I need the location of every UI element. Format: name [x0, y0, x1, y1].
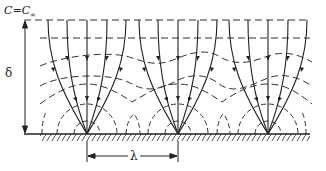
flux-lines	[48, 20, 307, 134]
lambda-label: λ	[128, 149, 140, 163]
far-field-concentration-label: C=C∞	[4, 4, 36, 19]
substrate-wall	[24, 134, 310, 141]
diffusion-diagram	[0, 0, 326, 171]
concentration-label-text: C=C	[4, 4, 30, 17]
delta-label: δ	[5, 66, 12, 80]
infinity-subscript: ∞	[30, 11, 36, 19]
delta-dimension	[23, 21, 28, 133]
